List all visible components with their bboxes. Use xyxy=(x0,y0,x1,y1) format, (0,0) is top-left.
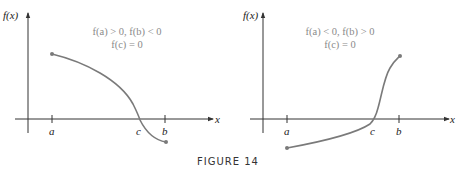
annotation-line2: f(c) = 0 xyxy=(111,39,143,51)
annotation-line1: f(a) > 0, f(b) < 0 xyxy=(93,26,162,38)
tick-label-a: a xyxy=(49,125,55,137)
ivt-figure: f(x) x a c b f(a) > 0, f(b) < 0 f(c) = 0… xyxy=(0,0,456,172)
function-curve xyxy=(52,54,166,142)
function-curve xyxy=(287,56,400,148)
annotation-line1: f(a) < 0, f(b) > 0 xyxy=(306,26,375,38)
y-axis-label: f(x) xyxy=(3,9,19,22)
y-axis-label: f(x) xyxy=(243,9,259,22)
x-axis-label: x xyxy=(214,113,220,125)
left-panel: f(x) x a c b f(a) > 0, f(b) < 0 f(c) = 0 xyxy=(3,9,220,144)
endpoint-b xyxy=(164,140,168,144)
tick-label-b: b xyxy=(396,125,402,137)
tick-label-a: a xyxy=(284,125,290,137)
endpoint-a xyxy=(285,146,289,150)
annotation-line2: f(c) = 0 xyxy=(324,39,356,51)
endpoint-a xyxy=(50,52,54,56)
right-panel: f(x) x a c b f(a) < 0, f(b) > 0 f(c) = 0 xyxy=(243,9,455,150)
endpoint-b xyxy=(398,54,402,58)
x-axis-label: x xyxy=(449,113,455,125)
tick-label-c: c xyxy=(370,125,375,137)
tick-label-b: b xyxy=(162,125,168,137)
figure-caption: FIGURE 14 xyxy=(197,156,259,167)
tick-label-c: c xyxy=(136,125,141,137)
